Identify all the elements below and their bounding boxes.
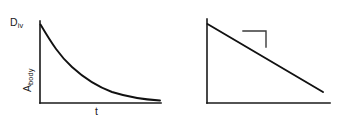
intercept-label-div-sub: iv [18, 21, 24, 30]
log-linear-line [208, 24, 324, 92]
iv-decay-plot [0, 0, 169, 123]
exponential-decay-curve [41, 25, 161, 101]
panel-ln-decay: ln(Div) ln(Abody) t Slope = –k [169, 0, 338, 123]
ln-decay-plot [169, 0, 338, 123]
y-axis-label-abody: Abody [22, 68, 33, 92]
panel-iv-decay: Div Abody t [0, 0, 169, 123]
x-axis-label-t-left: t [95, 106, 98, 117]
intercept-label-div-text: D [10, 16, 18, 28]
y-axis-label-abody-sub: body [26, 68, 35, 84]
slope-triangle-marker [243, 31, 266, 47]
y-axis-label-abody-text: A [21, 85, 33, 92]
pharmacokinetics-figure: Div Abody t ln(Div) ln(Abody) t Slope = … [0, 0, 338, 123]
intercept-label-div: Div [10, 17, 23, 28]
